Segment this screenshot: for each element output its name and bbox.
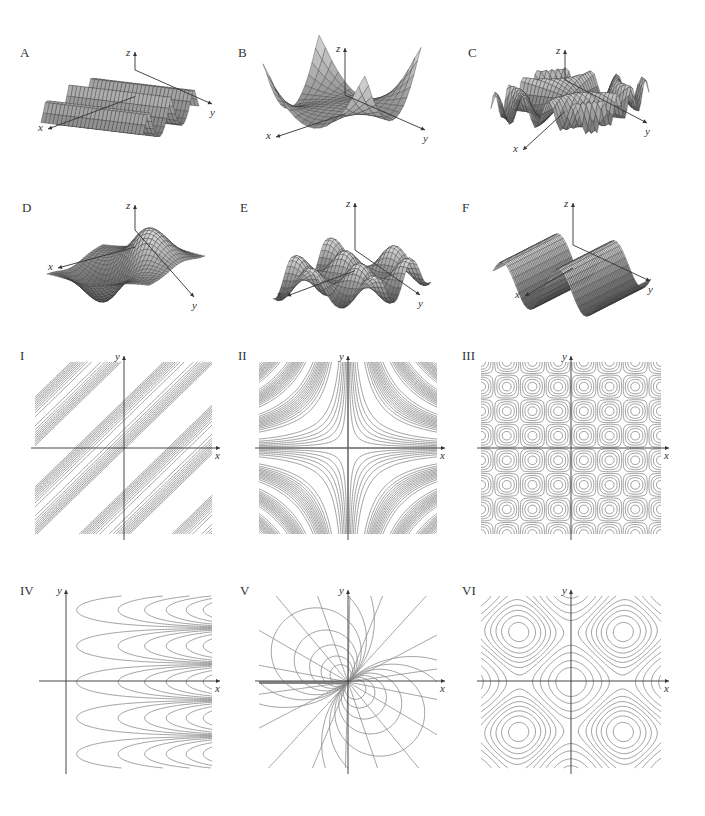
surface-plot-c: zxy	[491, 44, 650, 154]
surface-plot-f: zxy	[493, 197, 653, 316]
contour-plot-iv: xy	[39, 584, 220, 774]
axis-label: x	[37, 121, 43, 133]
contour-lines	[77, 596, 212, 768]
contour-plot-iii: xy	[477, 350, 669, 540]
arrow-icon	[58, 265, 62, 269]
axis-label: x	[439, 682, 445, 694]
arrow-icon	[569, 590, 573, 594]
axis-label: y	[561, 584, 567, 596]
arrow-icon	[343, 48, 347, 52]
arrow-icon	[346, 356, 350, 360]
axis-label: y	[417, 297, 423, 309]
axis-label: y	[191, 299, 197, 311]
arrow-icon	[571, 203, 575, 207]
arrow-icon	[346, 590, 350, 594]
contour-plot-i: xy	[31, 350, 220, 540]
axis-label: x	[663, 449, 669, 461]
axis-label: z	[555, 44, 561, 56]
figure-canvas: xyxyxyxyxyxyzxyzxyzxyzxyzxyzxy	[0, 0, 705, 816]
surface-plot-e: zxy	[273, 197, 431, 309]
axis-label: z	[125, 46, 131, 58]
arrow-icon	[122, 356, 126, 360]
axis-label: x	[47, 260, 53, 272]
axis-label: x	[514, 288, 520, 300]
axis-label: x	[214, 682, 220, 694]
axis-label: z	[345, 197, 351, 209]
axis-label: x	[663, 682, 669, 694]
axis-label: y	[209, 106, 215, 118]
axis-label: y	[56, 584, 62, 596]
arrow-icon	[353, 203, 357, 207]
contour-plot-vi: xy	[477, 584, 669, 774]
axis-label: y	[644, 125, 650, 137]
axis-label: y	[338, 350, 344, 362]
axis-label: x	[512, 142, 518, 154]
surface-plot-a: zxy	[37, 46, 215, 137]
arrow-icon	[276, 134, 280, 138]
surface-plot-d: zxy	[47, 199, 205, 311]
axis-label: y	[338, 584, 344, 596]
axis-label: x	[265, 129, 271, 141]
axis-label: z	[125, 199, 131, 211]
contour-plot-v: xy	[255, 584, 445, 774]
axis-label: x	[439, 449, 445, 461]
axis-label: y	[561, 350, 567, 362]
axis-label: y	[647, 283, 653, 295]
axis-label: y	[422, 132, 428, 144]
axis-label: z	[563, 197, 569, 209]
arrow-icon	[416, 291, 420, 295]
arrow-icon	[563, 50, 567, 54]
arrow-icon	[133, 205, 137, 209]
axis-label: x	[214, 449, 220, 461]
axis-label: z	[335, 42, 341, 54]
surface-plot-b: zxy	[263, 35, 428, 144]
arrow-icon	[133, 52, 137, 56]
contour-plot-ii: xy	[255, 350, 445, 540]
arrow-icon	[64, 590, 68, 594]
arrow-icon	[569, 356, 573, 360]
axis-label: x	[276, 288, 282, 300]
axis-label: y	[114, 350, 120, 362]
